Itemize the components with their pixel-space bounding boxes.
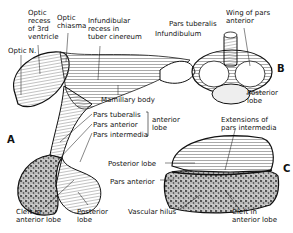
label-cleft-a: Cleft in anterior lobe: [16, 208, 61, 224]
panel-letter-c: C: [283, 163, 290, 174]
label-optic-chiasma: Optic chiasma: [57, 14, 86, 30]
label-wing-pars-anterior: Wing of pars anterior: [226, 9, 270, 25]
label-optic-nerve: Optic N.: [8, 47, 36, 55]
label-pars-tuberalis-b: Pars tuberalis: [169, 20, 217, 28]
label-mamillary-body: Mamillary body: [101, 96, 155, 104]
label-pars-anterior-a: Pars anterior: [93, 121, 138, 129]
label-pars-intermedia-a: Pars intermedia: [93, 131, 148, 139]
label-posterior-lobe-a: Posterior lobe: [77, 208, 108, 224]
label-extensions-pars-intermedia: Extensions of pars intermedia: [221, 116, 276, 132]
label-pars-tuberalis-a: Pars tuberalis: [93, 111, 141, 119]
label-infundibulum: Infundibulum: [155, 30, 201, 38]
label-vascular-hilus: Vascular hilus: [128, 208, 176, 216]
panel-c-drawing: [160, 130, 279, 213]
label-cleft-c: Cleft in anterior lobe: [232, 208, 277, 224]
label-optic-recess: Optic recess of 3rd ventricle: [28, 9, 59, 41]
label-posterior-lobe-b: Posterior lobe: [247, 89, 278, 105]
label-infundibular-recess: Infundibular recess in tuber cinereum: [88, 17, 142, 41]
panel-letter-a: A: [7, 134, 15, 145]
label-anterior-lobe-group: anterior lobe: [152, 116, 180, 132]
label-posterior-lobe-c: Posterior lobe: [108, 160, 156, 168]
panel-letter-b: B: [277, 63, 285, 74]
label-pars-anterior-c: Pars anterior: [110, 178, 155, 186]
